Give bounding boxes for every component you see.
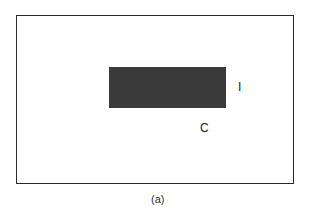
figure-caption: (a)	[151, 193, 164, 205]
label-c: C	[200, 122, 209, 134]
dark-rectangle-block	[109, 67, 226, 108]
label-i: I	[238, 81, 241, 93]
